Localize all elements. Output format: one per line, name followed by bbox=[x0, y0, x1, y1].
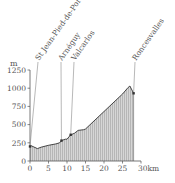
x-tick-label: 25 bbox=[118, 164, 128, 173]
elevation-fill bbox=[30, 86, 134, 161]
x-tick-label: 30km bbox=[138, 164, 159, 173]
x-tick-label: 0 bbox=[28, 164, 33, 173]
x-tick-label: 10 bbox=[62, 164, 72, 173]
town-label: Roncesvalles bbox=[130, 16, 166, 62]
x-tick-label: 15 bbox=[81, 164, 91, 173]
elevation-area bbox=[30, 86, 134, 161]
town-marker bbox=[60, 139, 62, 141]
town-marker bbox=[29, 145, 31, 147]
town-marker bbox=[132, 92, 134, 94]
leader-line bbox=[71, 62, 74, 135]
elevation-profile-chart: m025050075010001250051015202530km St Jea… bbox=[0, 0, 175, 183]
y-tick-label: 500 bbox=[12, 120, 27, 129]
x-tick-label: 5 bbox=[46, 164, 51, 173]
leader-line bbox=[134, 62, 135, 93]
x-tick-label: 20 bbox=[99, 164, 109, 173]
leader-line bbox=[30, 62, 38, 146]
y-tick-label: 250 bbox=[12, 139, 27, 148]
y-tick-label: 750 bbox=[12, 102, 27, 111]
y-tick-label: 0 bbox=[21, 157, 26, 166]
y-tick-label: 1000 bbox=[7, 84, 26, 93]
y-tick-label: 1250 bbox=[7, 66, 26, 75]
town-marker bbox=[70, 134, 72, 136]
